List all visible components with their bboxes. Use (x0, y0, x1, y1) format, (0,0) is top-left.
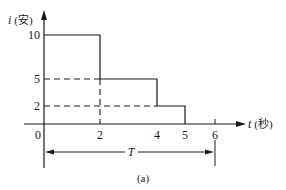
y-axis-arrow-icon (41, 10, 47, 20)
x-tick-4: 4 (154, 128, 160, 142)
x-axis-label: t(秒) (248, 117, 273, 131)
x-tick-0: 0 (35, 128, 41, 142)
figure-caption: (a) (137, 172, 150, 185)
x-tick-6: 6 (212, 128, 218, 142)
x-tick-5: 5 (182, 128, 188, 142)
dashed-reference-lines (44, 79, 157, 124)
x-axis-arrow-icon (236, 121, 246, 127)
x-tick-2: 2 (97, 128, 103, 142)
period-right-arrow-icon (205, 150, 214, 155)
step-current-diagram: i(安) 10 5 2 0 2 4 5 6 t(秒) T (a) (0, 0, 286, 190)
y-tick-5: 5 (34, 72, 40, 86)
period-label: T (128, 145, 136, 159)
y-tick-10: 10 (28, 28, 40, 42)
period-left-arrow-icon (45, 150, 54, 155)
y-tick-2: 2 (34, 99, 40, 113)
y-axis-label: i(安) (8, 13, 33, 27)
